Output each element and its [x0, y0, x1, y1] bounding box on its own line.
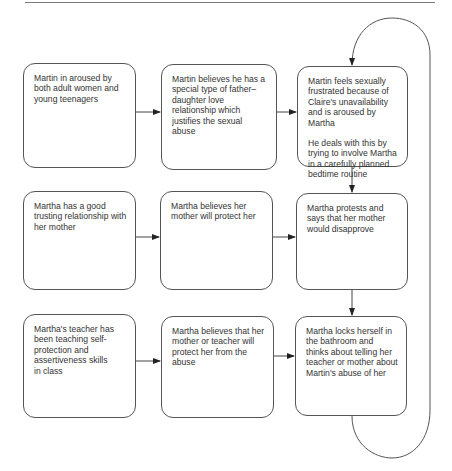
box-text: Martha believes her mother will protect …	[171, 201, 264, 222]
box-text: Martin feels sexually frustrated because…	[308, 76, 399, 128]
flow-box-martha-locks-herself: Martha locks herself in the bathroom and…	[295, 316, 407, 416]
box-text: Martha has a good trusting relationship …	[34, 201, 127, 232]
flow-box-martha-belief-protection: Martha believes that her mother or teach…	[161, 316, 274, 418]
flow-box-martha-belief-mother: Martha believes her mother will protect …	[160, 191, 273, 290]
flow-box-martha-relationship: Martha has a good trusting relationship …	[23, 191, 136, 290]
box-text: Martin in aroused by both adult women an…	[34, 73, 127, 104]
box-text: Martha protests and says that her mother…	[307, 203, 399, 234]
box-text: Martha's teacher has been teaching self-…	[34, 324, 127, 376]
flow-box-teacher-skills: Martha's teacher has been teaching self-…	[23, 314, 136, 418]
box-text: Martha locks herself in the bathroom and…	[306, 326, 398, 378]
flow-box-martha-protests: Martha protests and says that her mother…	[296, 193, 408, 290]
box-text: Martha believes that her mother or teach…	[172, 326, 265, 368]
flow-box-martin-belief: Martin believes he has a special type of…	[161, 64, 277, 170]
flow-box-martin-frustration: Martin feels sexually frustrated because…	[297, 66, 408, 167]
flow-box-martin-arousal: Martin in aroused by both adult women an…	[23, 63, 136, 168]
box-text: Martin believes he has a special type of…	[172, 74, 268, 136]
box-text: He deals with this by trying to involve …	[308, 138, 399, 180]
